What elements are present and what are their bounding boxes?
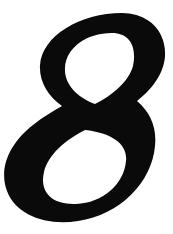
digit-eight-glyph xyxy=(0,0,173,234)
image-canvas xyxy=(0,0,173,234)
